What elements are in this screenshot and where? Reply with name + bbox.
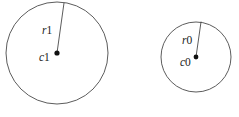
small-circle-center-label: c0	[180, 57, 191, 69]
large-circle-center-label: c1	[39, 52, 50, 64]
center-index: 0	[185, 56, 191, 68]
small-circle-center-dot	[194, 55, 199, 60]
large-circle-radius-label: r1	[42, 25, 52, 37]
small-circle-radius-label: r0	[182, 35, 192, 47]
radius-index: 0	[186, 34, 192, 46]
center-index: 1	[44, 51, 50, 63]
radius-index: 1	[46, 24, 52, 36]
large-circle-radius-line	[57, 3, 64, 53]
large-circle-center-dot	[54, 50, 59, 55]
small-circle-radius-line	[196, 22, 201, 57]
diagram-canvas	[0, 0, 239, 117]
circles-diagram: r1 c1 r0 c0	[0, 0, 239, 117]
